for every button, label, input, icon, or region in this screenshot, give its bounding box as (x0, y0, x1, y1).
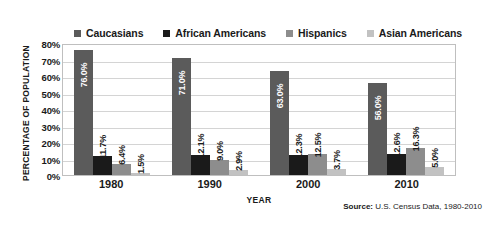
bar-value-label: 5.0% (430, 148, 440, 168)
bar-slot: 63.0% (270, 45, 289, 175)
bar-groups: 76.0%11.7%6.4%1.5%71.0%12.1%9.0%2.9%63.0… (63, 45, 455, 175)
y-axis-tick: 10% (42, 154, 60, 165)
x-axis-tick-1990: 1990 (161, 178, 260, 190)
bar-value-label: 71.0% (177, 71, 187, 96)
y-axis-tick: 80% (42, 39, 60, 50)
bar-slot: 9.0% (210, 45, 229, 175)
bar-value-label: 6.4% (117, 146, 127, 166)
bar-1990-2[interactable] (210, 160, 229, 175)
x-axis-tick-2000: 2000 (259, 178, 358, 190)
source-text: U.S. Census Data, 1980-2010 (375, 202, 482, 211)
bar-2010-2[interactable] (406, 148, 425, 175)
legend-label: Caucasians (86, 27, 143, 39)
bar-value-label: 16.3% (411, 127, 421, 152)
bar-value-label: 11.7% (98, 135, 108, 159)
bar-group-2010: 56.0%12.6%16.3%5.0% (357, 45, 455, 175)
y-axis-tick: 30% (42, 121, 60, 132)
source-note: Source: U.S. Census Data, 1980-2010 (343, 202, 482, 211)
bar-value-label: 63.0% (275, 84, 285, 109)
bar-slot: 1.5% (131, 45, 150, 175)
chart-legend: CaucasiansAfrican AmericansHispanicsAsia… (62, 24, 462, 42)
population-bar-chart: CaucasiansAfrican AmericansHispanicsAsia… (0, 0, 494, 226)
bar-value-label: 12.5% (313, 133, 323, 158)
bar-slot: 5.0% (425, 45, 444, 175)
y-axis-tick-labels: 80%70%60%50%40%30%20%10%0% (28, 44, 60, 176)
bar-value-label: 12.3% (294, 133, 304, 158)
bar-value-label: 9.0% (215, 141, 225, 161)
bar-slot: 12.3% (289, 45, 308, 175)
legend-swatch-icon (163, 30, 170, 37)
y-axis-tick: 20% (42, 138, 60, 149)
bar-2000-2[interactable] (308, 154, 327, 175)
x-axis-tick-1980: 1980 (62, 178, 161, 190)
bar-value-label: 12.6% (392, 133, 402, 158)
bars: 76.0%11.7%6.4%1.5% (63, 45, 161, 175)
legend-item-0[interactable]: Caucasians (74, 27, 143, 39)
bar-1980-2[interactable] (112, 164, 131, 175)
bar-group-1980: 76.0%11.7%6.4%1.5% (63, 45, 161, 175)
bar-1990-3[interactable] (229, 170, 248, 175)
bar-slot: 2.9% (229, 45, 248, 175)
y-axis-tick: 40% (42, 105, 60, 116)
plot-area: 76.0%11.7%6.4%1.5%71.0%12.1%9.0%2.9%63.0… (62, 44, 456, 176)
bars: 63.0%12.3%12.5%3.7% (259, 45, 357, 175)
bar-slot: 12.5% (308, 45, 327, 175)
source-label: Source: (343, 202, 373, 211)
bar-slot: 12.6% (387, 45, 406, 175)
bar-group-2000: 63.0%12.3%12.5%3.7% (259, 45, 357, 175)
bar-slot: 56.0% (368, 45, 387, 175)
y-axis-tick: 50% (42, 88, 60, 99)
legend-swatch-icon (286, 30, 293, 37)
legend-swatch-icon (74, 30, 81, 37)
bar-group-1990: 71.0%12.1%9.0%2.9% (161, 45, 259, 175)
bars: 56.0%12.6%16.3%5.0% (357, 45, 455, 175)
legend-label: African Americans (175, 27, 266, 39)
bar-slot: 3.7% (327, 45, 346, 175)
legend-item-2[interactable]: Hispanics (286, 27, 347, 39)
bar-value-label: 2.9% (234, 151, 244, 171)
bar-slot: 16.3% (406, 45, 425, 175)
bar-slot: 6.4% (112, 45, 131, 175)
bar-slot: 76.0% (74, 45, 93, 175)
bar-slot: 71.0% (172, 45, 191, 175)
x-axis-tick-labels: 1980199020002010 (62, 178, 456, 190)
bar-2010-3[interactable] (425, 167, 444, 175)
bar-value-label: 3.7% (332, 150, 342, 170)
legend-label: Hispanics (298, 27, 347, 39)
bar-value-label: 12.1% (196, 134, 206, 159)
bar-value-label: 56.0% (373, 95, 383, 120)
legend-swatch-icon (367, 30, 374, 37)
bar-slot: 12.1% (191, 45, 210, 175)
legend-item-3[interactable]: Asian Americans (367, 27, 462, 39)
plot-wrapper: 80%70%60%50%40%30%20%10%0% 76.0%11.7%6.4… (62, 44, 456, 176)
x-axis-tick-2010: 2010 (358, 178, 457, 190)
bar-2010-1[interactable] (387, 154, 406, 175)
legend-label: Asian Americans (379, 27, 462, 39)
y-axis-tick: 0% (47, 171, 60, 182)
y-axis-tick: 70% (42, 55, 60, 66)
bar-value-label: 76.0% (79, 62, 89, 87)
bar-slot: 11.7% (93, 45, 112, 175)
legend-item-1[interactable]: African Americans (163, 27, 266, 39)
bars: 71.0%12.1%9.0%2.9% (161, 45, 259, 175)
y-axis-tick: 60% (42, 72, 60, 83)
bar-value-label: 1.5% (136, 154, 146, 174)
